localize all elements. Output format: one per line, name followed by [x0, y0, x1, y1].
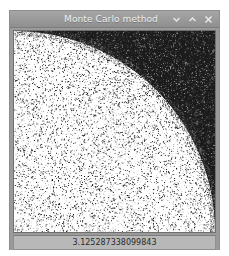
application-window: Monte Carlo method	[9, 10, 220, 250]
title-bar[interactable]: Monte Carlo method	[10, 11, 219, 28]
app-root: Monte Carlo method	[0, 0, 229, 256]
window-client-area: 3.125287338099843	[10, 28, 219, 250]
close-icon[interactable]	[204, 15, 213, 24]
window-controls	[172, 15, 216, 24]
minimize-icon[interactable]	[172, 15, 181, 24]
scatter-canvas	[14, 31, 215, 232]
monte-carlo-plot	[13, 30, 216, 233]
maximize-icon[interactable]	[188, 15, 197, 24]
pi-estimate-value: 3.125287338099843	[73, 238, 157, 248]
window-title: Monte Carlo method	[16, 14, 172, 25]
status-bar: 3.125287338099843	[13, 235, 216, 250]
